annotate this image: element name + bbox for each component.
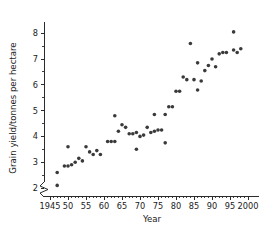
data-point [142,133,146,137]
data-point [138,135,142,139]
data-point [99,153,103,157]
y-axis-title: Grain yield/tonnes per hectare [8,42,18,173]
x-tick-label-95: 95 [225,201,235,211]
data-point [124,126,128,130]
data-point [163,113,167,117]
data-point [63,164,67,168]
data-point [163,141,167,145]
data-point [77,157,81,161]
data-point [153,113,157,117]
data-point [81,159,85,163]
data-point [171,105,175,109]
scatter-chart-figure: 23456781945505560657075808590952000YearG… [0,0,268,247]
data-point [239,47,243,51]
data-point [196,61,200,65]
data-point [232,30,236,34]
data-point [113,140,117,144]
x-tick-label-90: 90 [207,201,217,211]
data-point-group [55,30,242,187]
data-point [70,163,74,167]
data-point [145,126,149,130]
data-point [235,51,239,55]
data-point [178,89,182,93]
x-tick-label-70: 70 [135,201,145,211]
y-tick-label-5: 5 [33,106,38,116]
data-point [113,114,117,118]
data-point [95,149,99,153]
data-point [88,150,92,154]
y-tick-label-8: 8 [33,28,38,38]
y-axis-break-icon [40,182,48,197]
x-tick-label-60: 60 [99,201,109,211]
data-point [149,131,153,135]
x-tick-label-75: 75 [153,201,163,211]
x-axis-title: Year [142,214,162,224]
data-point [120,123,124,127]
y-tick-label-7: 7 [33,54,38,64]
data-point [91,153,95,157]
x-tick-label-80: 80 [171,201,181,211]
x-tick-label-85: 85 [189,201,199,211]
data-point [66,145,70,149]
data-point [84,145,88,149]
y-tick-label-3: 3 [33,157,38,167]
data-point [131,132,135,136]
data-point [214,65,218,69]
y-tick-label-2: 2 [33,183,38,193]
data-point [203,69,207,73]
data-point [156,128,160,132]
data-point [181,75,185,79]
x-tick-label-55: 55 [81,201,91,211]
data-point [221,51,225,55]
data-point [189,42,193,46]
data-point [167,105,171,109]
data-point [135,148,139,152]
data-point [174,89,178,93]
data-point [106,140,110,144]
data-point [153,129,157,133]
y-tick-label-6: 6 [33,80,38,90]
data-point [192,78,196,82]
data-point [225,51,229,55]
data-point [185,78,189,82]
data-point [135,131,139,135]
data-point [66,164,70,168]
data-point [196,88,200,92]
x-tick-label-2000: 2000 [238,201,259,211]
data-point [127,132,131,136]
data-point [109,140,113,144]
y-tick-label-4: 4 [33,131,38,141]
x-tick-label-50: 50 [63,201,73,211]
x-tick-label-65: 65 [117,201,127,211]
data-point [55,184,59,188]
x-tick-label-1945: 1945 [40,201,61,211]
data-point [207,64,211,68]
data-point [117,129,121,133]
data-point [199,79,203,83]
data-point [55,171,59,175]
data-point [217,52,221,56]
data-point [160,128,164,132]
data-point [232,48,236,52]
chart-canvas: 23456781945505560657075808590952000YearG… [0,0,268,247]
data-point [73,160,77,164]
data-point [210,57,214,61]
